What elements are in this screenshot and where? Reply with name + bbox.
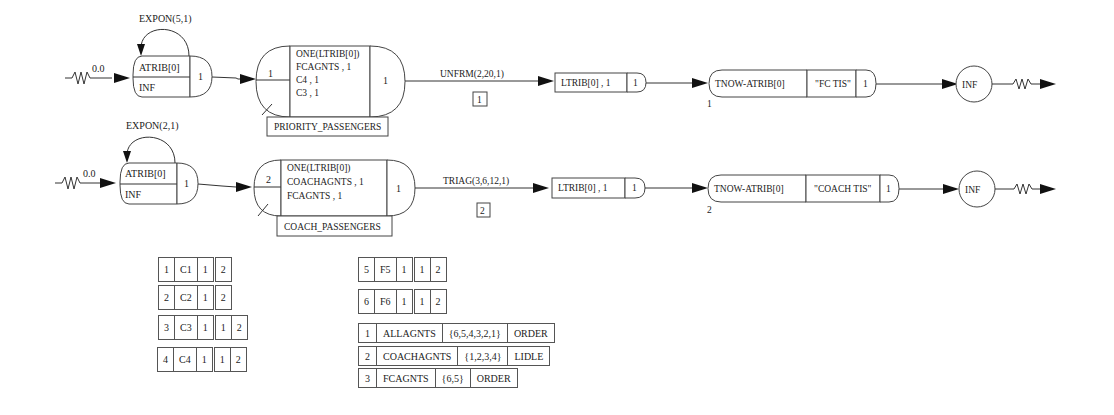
group-rule: ORDER: [507, 324, 554, 343]
arrow-icon: [100, 178, 116, 188]
zigzag-source-icon: [65, 72, 112, 84]
await-resource: C4 , 1: [296, 75, 319, 85]
await-resource: FCAGNTS , 1: [287, 191, 342, 201]
zigzag-sink-icon: [992, 79, 1040, 89]
await-resource: COACHAGNTS , 1: [287, 177, 364, 187]
create-offset: 0.0: [92, 63, 105, 74]
create-max: INF: [125, 189, 142, 200]
await-resource: FCAGNTS , 1: [296, 62, 351, 72]
loop-arrow-icon: [137, 44, 145, 56]
create-max: INF: [139, 82, 156, 93]
group-members: {6,5,4,3,2,1}: [442, 324, 507, 343]
activity-number: 1: [477, 95, 482, 105]
await-node-priority[interactable]: 1 ONE(LTRIB[0]) FCAGNTS , 1 C4 , 1 C3 , …: [256, 46, 405, 136]
terminate-node-coach[interactable]: INF: [959, 171, 1056, 207]
create-node-coach[interactable]: 0.0 ATRIB[0] INF 1 EXPON(2,1): [55, 120, 198, 204]
resource-number: 1: [159, 258, 175, 282]
resource-file: 1: [413, 258, 430, 282]
resource-block-3[interactable]: 3C3112: [158, 315, 248, 340]
arrow-icon: [692, 183, 708, 193]
await-resource: C3 , 1: [296, 88, 319, 98]
group-number: 2: [359, 347, 377, 366]
arrow-icon: [692, 78, 708, 88]
await-file: 2: [266, 174, 271, 185]
arrow-icon: [1040, 79, 1056, 89]
assign-node-coach[interactable]: LTRIB[0] , 1 1: [552, 178, 645, 198]
create-interval: EXPON(5,1): [139, 13, 192, 25]
terminate-label: INF: [962, 80, 977, 90]
activity-duration: TRIAG(3,6,12,1): [443, 176, 509, 187]
await-node-coach[interactable]: 2 ONE(LTRIB[0]) COACHAGNTS , 1 FCAGNTS ,…: [254, 160, 415, 236]
activity-number: 2: [480, 206, 485, 216]
assign-expr: LTRIB[0] , 1: [558, 183, 608, 193]
resource-name: C3: [175, 316, 198, 340]
assign-branches: 1: [632, 183, 637, 193]
resource-block-4[interactable]: 4C4112: [157, 347, 247, 372]
colct-node-fc[interactable]: TNOW-ATRIB[0] "FC TIS" 1 1: [707, 70, 876, 109]
group-block-2[interactable]: 2COACHAGNTS{1,2,3,4}LIDLE: [358, 346, 550, 366]
resource-name: C1: [175, 258, 198, 282]
group-number: 1: [359, 324, 377, 343]
group-number: 3: [359, 369, 377, 388]
terminate-node-priority[interactable]: INF: [956, 66, 1056, 102]
await-alloc: ONE(LTRIB[0]): [287, 163, 351, 174]
group-rule: ORDER: [470, 369, 517, 388]
create-node-priority[interactable]: 0.0 ATRIB[0] INF 1 EXPON(5,1): [65, 13, 212, 97]
resource-file: 2: [430, 258, 446, 282]
resource-block-1[interactable]: 1C112: [158, 257, 232, 282]
arrow-icon: [236, 182, 252, 192]
await-file: 1: [268, 68, 273, 79]
assign-branches: 1: [633, 78, 638, 88]
resource-file: 2: [430, 290, 446, 314]
resource-file: 2: [230, 348, 246, 372]
terminate-label: INF: [965, 185, 980, 195]
group-name: FCAGNTS: [377, 369, 436, 388]
resource-block-6[interactable]: 6F6112: [358, 289, 447, 314]
resource-file: 1: [214, 316, 231, 340]
colct-branches: 1: [886, 184, 891, 194]
create-attribute: ATRIB[0]: [139, 62, 180, 73]
resource-capacity: 1: [196, 348, 213, 372]
create-offset: 0.0: [83, 168, 96, 179]
colct-number: 2: [707, 205, 712, 215]
resource-capacity: 1: [197, 258, 214, 282]
group-name: COACHAGNTS: [377, 347, 458, 366]
resource-number: 6: [359, 290, 375, 314]
resource-capacity: 1: [197, 316, 214, 340]
group-block-1[interactable]: 1ALLAGNTS{6,5,4,3,2,1}ORDER: [358, 323, 555, 343]
resource-number: 2: [159, 286, 175, 310]
activity-priority[interactable]: UNFRM(2,20,1) 1: [405, 69, 554, 106]
colct-expr: TNOW-ATRIB[0]: [714, 184, 784, 194]
resource-name: F5: [375, 258, 397, 282]
create-attribute: ATRIB[0]: [125, 168, 166, 179]
resource-name: C4: [174, 348, 197, 372]
colct-label: "COACH TIS": [814, 184, 872, 194]
arrow-icon: [943, 184, 959, 194]
zigzag-sink-icon: [995, 184, 1040, 194]
activity-coach[interactable]: TRIAG(3,6,12,1) 2: [415, 176, 549, 217]
create-branches: 1: [198, 71, 203, 82]
resource-capacity: 1: [396, 290, 413, 314]
arrow-icon: [1040, 184, 1056, 194]
colct-node-coach[interactable]: TNOW-ATRIB[0] "COACH TIS" 1 2: [707, 175, 899, 215]
assign-node-priority[interactable]: LTRIB[0] , 1 1: [555, 73, 646, 92]
await-alloc: ONE(LTRIB[0]): [296, 49, 360, 60]
group-block-3[interactable]: 3FCAGNTS{6,5}ORDER: [358, 368, 518, 388]
colct-branches: 1: [863, 79, 868, 89]
resource-file: 2: [214, 258, 231, 282]
group-members: {6,5}: [435, 369, 470, 388]
colct-expr: TNOW-ATRIB[0]: [715, 79, 785, 89]
await-branches: 1: [396, 183, 401, 194]
resource-file: 2: [231, 316, 247, 340]
arrow-icon: [533, 183, 549, 193]
resource-file: 2: [214, 286, 231, 310]
arrow-icon: [114, 73, 130, 83]
group-name: ALLAGNTS: [377, 324, 443, 343]
resource-file: 1: [413, 290, 430, 314]
resource-number: 4: [158, 348, 174, 372]
resource-capacity: 1: [197, 286, 214, 310]
arrow-icon: [538, 76, 554, 86]
resource-block-5[interactable]: 5F5112: [358, 257, 447, 282]
resource-name: F6: [375, 290, 397, 314]
resource-block-2[interactable]: 2C212: [158, 285, 232, 310]
